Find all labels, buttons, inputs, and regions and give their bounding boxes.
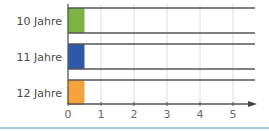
tick-label: 5	[230, 108, 237, 121]
category-label: 10 Jahre	[17, 15, 63, 28]
bar	[68, 80, 85, 105]
tick-label: 1	[98, 108, 105, 121]
category-label: 12 Jahre	[17, 87, 63, 100]
bar-chart: 10 Jahre11 Jahre12 Jahre 012345	[0, 0, 269, 131]
tick-label: 0	[65, 108, 72, 121]
axis-arrow-icon	[248, 101, 257, 107]
category-label: 11 Jahre	[17, 51, 63, 64]
bar-row: 12 Jahre	[17, 80, 256, 105]
tick-label: 4	[197, 108, 204, 121]
bar	[68, 8, 85, 33]
bar-rows: 10 Jahre11 Jahre12 Jahre	[17, 8, 256, 105]
bar	[68, 44, 85, 69]
x-axis: 012345	[65, 4, 258, 121]
gridlines	[101, 4, 233, 104]
bar-row: 11 Jahre	[17, 44, 256, 69]
bottom-divider	[0, 127, 269, 129]
tick-label: 3	[164, 108, 171, 121]
tick-label: 2	[131, 108, 138, 121]
bar-row: 10 Jahre	[17, 8, 256, 33]
